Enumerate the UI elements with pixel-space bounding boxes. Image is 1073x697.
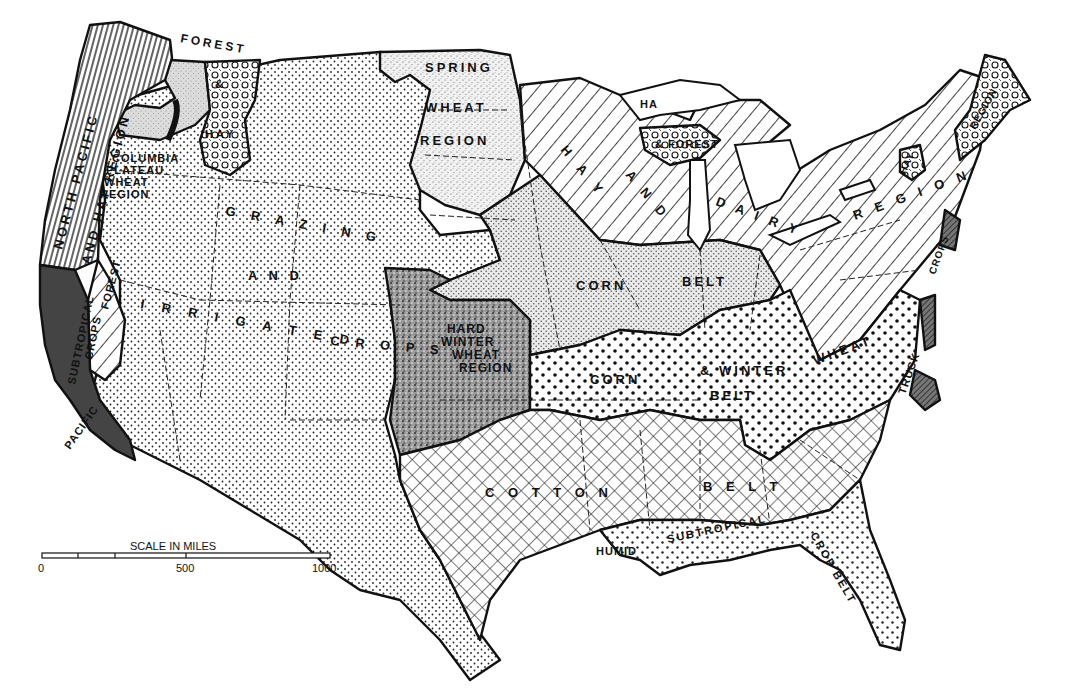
label-ha-gl: HA bbox=[640, 98, 658, 110]
label-winter: WINTER bbox=[441, 335, 494, 349]
scale-tick-1000: 1000 bbox=[312, 562, 336, 574]
label-corn-2: CORN bbox=[590, 372, 640, 387]
scale-tick-0: 0 bbox=[38, 562, 44, 574]
label-region-sw: REGION bbox=[420, 133, 489, 148]
label-hay-forest-gl: & FOREST bbox=[655, 138, 719, 150]
label-winter-2: & WINTER bbox=[700, 363, 788, 378]
label-belt-3: B E L T bbox=[703, 479, 783, 494]
region-truck-crops-va bbox=[910, 370, 940, 410]
label-belt-1: BELT bbox=[682, 274, 727, 289]
label-region-hw: REGION bbox=[459, 361, 512, 375]
label-hard: HARD bbox=[447, 322, 486, 336]
label-wheat-hw: WHEAT bbox=[452, 348, 500, 362]
label-columbia: COLUMBIA bbox=[112, 152, 179, 164]
label-wheat-sw: WHEAT bbox=[425, 100, 487, 115]
label-and-gi: A N D bbox=[248, 268, 303, 283]
label-amp-nw: & bbox=[215, 78, 226, 90]
region-truck-crops bbox=[920, 295, 935, 350]
label-wheat-cp: WHEAT bbox=[104, 176, 149, 188]
scale-tick-500: 500 bbox=[176, 562, 194, 574]
label-hay-nw: HAY bbox=[205, 128, 236, 140]
label-belt-2: BELT bbox=[710, 388, 755, 403]
label-plateau: PLATEAU bbox=[106, 164, 164, 176]
label-spring: SPRING bbox=[425, 60, 493, 75]
lake-michigan bbox=[688, 160, 710, 250]
scale-bar: SCALE IN MILES 0 500 1000 bbox=[38, 540, 336, 574]
label-region-cp: REGION bbox=[100, 188, 149, 200]
scale-title: SCALE IN MILES bbox=[130, 540, 216, 552]
label-cotton: C O T T O N bbox=[485, 485, 613, 500]
label-forest-nw: FOREST bbox=[179, 31, 247, 56]
label-humid: HUMID bbox=[596, 545, 637, 557]
agricultural-regions-map: FOREST & HAY NORTH PACIFIC AND HAY REGIO… bbox=[0, 0, 1073, 697]
label-corn-1: CORN bbox=[576, 278, 626, 293]
